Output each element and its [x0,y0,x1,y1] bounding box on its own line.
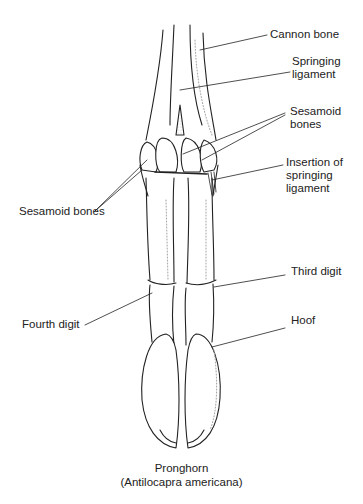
label-sesamoid-right-1: Sesamoid [290,105,341,118]
fourth-digit [146,178,176,345]
label-insertion-2: springing [286,169,333,182]
label-hoof: Hoof [291,314,315,327]
label-fourth-digit: Fourth digit [22,318,80,331]
caption-scientific-name: (Antilocapra americana) [0,475,363,489]
cannon-bone [146,25,216,140]
label-third-digit: Third digit [291,265,342,278]
hooves [142,334,221,448]
label-sesamoid-left: Sesamoid bones [19,205,105,218]
label-springing-ligament-1: Springing [292,55,341,68]
sesamoid-bones [140,138,218,196]
label-cannon-bone: Cannon bone [270,28,339,41]
leader-lines [85,35,290,347]
third-digit [185,178,216,345]
label-insertion-3: ligament [286,182,329,195]
caption-title: Pronghorn [0,461,363,475]
label-insertion-1: Insertion of [286,156,343,169]
label-sesamoid-right-2: bones [290,118,321,131]
label-springing-ligament-2: ligament [292,68,335,81]
